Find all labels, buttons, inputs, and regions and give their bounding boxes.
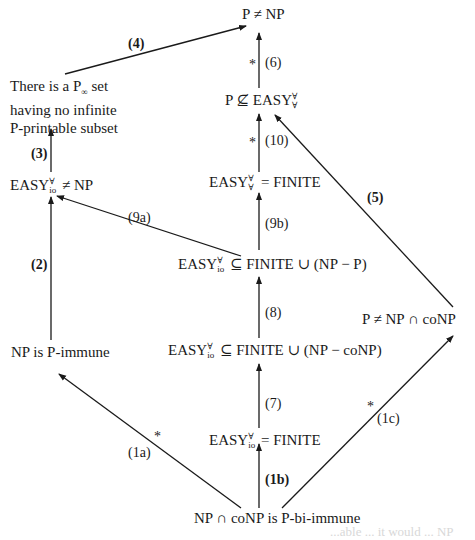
node-p-ne-np-cap-conp: P ≠ NP ∩ coNP (362, 311, 456, 328)
node-text: = FINITE (257, 174, 320, 190)
node-p-not-subset-easy: P ⊈ EASY∀∀ (225, 92, 301, 109)
node-line-1: There is a P∞ set (10, 77, 150, 101)
node-np-p-immune: NP is P-immune (11, 344, 110, 361)
quantifier-script: ∀io (207, 342, 216, 359)
node-text: EASY (168, 342, 207, 358)
node-text: ⊆ FINITE ∪ (NP − coNP) (216, 342, 382, 358)
edge-label-1c: (1c) (377, 411, 400, 427)
edge-1c (282, 336, 453, 508)
node-line-3: P-printable subset (10, 119, 150, 137)
quantifier-script: ∀∀ (292, 92, 301, 109)
node-text: set (88, 78, 108, 94)
node-text: ≠ NP (58, 177, 93, 193)
node-text: EASY (209, 432, 248, 448)
subscript: ∀ (292, 101, 297, 110)
edge-label-9a: (9a) (128, 210, 151, 226)
quantifier-script: ∀io (217, 256, 226, 273)
node-text: ⊆ FINITE ∪ (NP − P) (226, 256, 367, 272)
node-easy-aa-finite: EASY∀∀ = FINITE (209, 174, 321, 191)
node-text: EASY (10, 177, 49, 193)
node-text: = FINITE (257, 432, 320, 448)
edge-label-7: (7) (265, 396, 281, 412)
star-marker-1a: * (154, 430, 161, 444)
node-easy-io-finite: EASY∀io = FINITE (209, 432, 321, 449)
edge-9a (57, 196, 241, 256)
edge-label-6: (6) (265, 55, 281, 71)
edge-5 (275, 115, 453, 307)
quantifier-script: ∀∀ (248, 174, 257, 191)
subscript: io (248, 441, 255, 450)
node-text: P ⊈ EASY (225, 92, 292, 108)
edge-label-1b: (1b) (265, 472, 289, 488)
star-marker-10: * (249, 136, 256, 150)
edge-label-3: (3) (31, 146, 47, 162)
node-easy-io-subset-np-minus-p: EASY∀io ⊆ FINITE ∪ (NP − P) (178, 256, 367, 273)
node-easy-io-subset-np-minus-conp: EASY∀io ⊆ FINITE ∪ (NP − coNP) (168, 342, 382, 359)
node-text: NP is P-immune (11, 344, 110, 360)
cropped-text-fragment: ...able ... it would ... NP (330, 524, 454, 540)
node-text: P ≠ NP (242, 6, 285, 22)
edge-label-1a: (1a) (128, 445, 151, 461)
node-text: EASY (178, 256, 217, 272)
edge-label-5: (5) (367, 190, 383, 206)
quantifier-script: ∀io (248, 432, 257, 449)
star-marker-1c: * (367, 400, 374, 414)
edge-label-4: (4) (128, 36, 144, 52)
edge-label-2: (2) (31, 257, 47, 273)
node-text: There is a P (10, 78, 81, 94)
node-easy-io-ne-np: EASY∀io ≠ NP (10, 177, 93, 194)
star-marker-6: * (249, 58, 256, 72)
node-p-infinity-set: There is a P∞ set having no infinite P-p… (10, 77, 150, 137)
subscript: io (217, 265, 224, 274)
node-text: P ≠ NP ∩ coNP (362, 311, 456, 327)
edge-label-8: (8) (265, 305, 281, 321)
subscript: ∀ (248, 183, 253, 192)
edge-label-10: (10) (265, 133, 288, 149)
node-line-2: having no infinite (10, 101, 150, 119)
edge-label-9b: (9b) (265, 216, 288, 232)
edge-4 (65, 26, 246, 74)
subscript: io (207, 351, 214, 360)
subscript: io (49, 186, 56, 195)
quantifier-script: ∀io (49, 177, 58, 194)
node-text: EASY (209, 174, 248, 190)
node-p-ne-np: P ≠ NP (242, 6, 285, 23)
